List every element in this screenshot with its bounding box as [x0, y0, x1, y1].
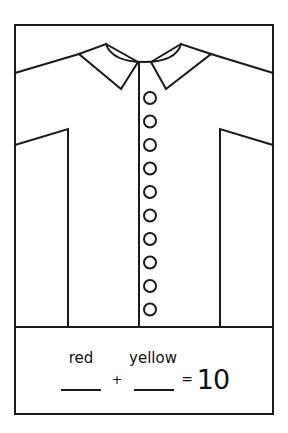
right-sleeve [220, 129, 273, 327]
left-sleeve [15, 129, 68, 327]
shirt-button [144, 280, 156, 292]
shirt-button [144, 116, 156, 128]
shirt-button [144, 163, 156, 175]
total-value: 10 [197, 364, 229, 395]
equals-sign: = [181, 371, 193, 387]
label-red: red [69, 349, 94, 367]
left-shoulder-line [15, 54, 79, 73]
shirt-button [144, 304, 156, 316]
plus-sign: + [112, 372, 123, 387]
worksheet-card: red yellow + = 10 [0, 0, 288, 433]
shirt-button [144, 233, 156, 245]
shirt-button [144, 257, 156, 269]
shirt-button [144, 186, 156, 198]
shirt-button [144, 210, 156, 222]
shirt-illustration: red yellow + = 10 [0, 0, 288, 433]
right-collar [151, 44, 211, 89]
shirt-button [144, 139, 156, 151]
button-column [144, 92, 156, 316]
right-shoulder-line [211, 54, 273, 73]
neckline [106, 44, 181, 62]
label-yellow: yellow [129, 349, 177, 367]
shirt-button [144, 92, 156, 104]
